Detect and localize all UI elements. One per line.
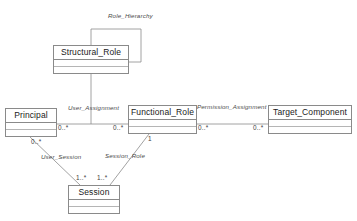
class-operations-compartment [6,130,56,137]
class-name-target-component: Target_Component [269,106,351,120]
multiplicity-principal-user-session: 0..* [31,138,41,145]
multiplicity-functional-role-permission-assignment: 0..* [198,124,208,131]
class-attributes-compartment [54,60,128,67]
multiplicity-functional-role-user-assignment: 0..* [113,124,123,131]
multiplicity-session-session-role: 1..* [97,174,107,181]
association-label-permission-assignment: Permission_Assignment [197,103,267,110]
class-operations-compartment [269,127,351,134]
uml-class-diagram: Structural_Role Principal Functional_Rol… [0,0,357,221]
connector-session-role [110,134,149,185]
class-box-functional-role[interactable]: Functional_Role [128,105,197,134]
multiplicity-target-component-permission-assignment: 0..* [253,124,263,131]
class-name-principal: Principal [6,109,56,123]
class-box-target-component[interactable]: Target_Component [268,105,352,134]
multiplicity-functional-role-session-role: 1 [148,135,152,142]
multiplicity-principal-user-assignment: 0..* [58,124,68,131]
class-name-functional-role: Functional_Role [129,106,196,120]
class-attributes-compartment [269,120,351,127]
association-label-session-role: Session_Role [105,152,145,159]
class-name-session: Session [69,186,119,200]
class-operations-compartment [54,67,128,74]
class-attributes-compartment [129,120,196,127]
class-name-structural-role: Structural_Role [54,46,128,60]
multiplicity-session-user-session: 1..* [76,174,86,181]
class-operations-compartment [129,127,196,134]
association-label-user-session: User_Session [41,153,81,160]
class-box-session[interactable]: Session [68,185,120,214]
class-box-structural-role[interactable]: Structural_Role [53,45,129,74]
class-box-principal[interactable]: Principal [5,108,57,137]
class-operations-compartment [69,207,119,214]
association-label-role-hierarchy: Role_Hierarchy [108,12,153,19]
class-attributes-compartment [6,123,56,130]
class-attributes-compartment [69,200,119,207]
association-label-user-assignment: User_Assignment [68,104,119,111]
